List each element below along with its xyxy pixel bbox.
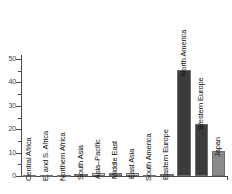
y-tick-major: [16, 176, 21, 177]
bar: [177, 70, 190, 176]
y-tick-label: 20: [0, 125, 16, 132]
bar-category-label: South Asia: [76, 145, 85, 180]
bar-category-label: Middle East: [110, 141, 119, 179]
bar-category-label: Central Africa: [24, 137, 33, 181]
y-tick-label: 30: [0, 102, 16, 109]
y-axis-line: [21, 55, 22, 177]
y-tick-major: [16, 59, 21, 60]
bar-category-label: Japan: [213, 137, 222, 157]
y-tick-label: 10: [0, 149, 16, 156]
bar-category-label: Northern Africa: [58, 132, 67, 181]
bar-chart: 01020304050 Central AfricaE. and S. Afri…: [0, 0, 232, 194]
bar-category-label: North America: [179, 30, 188, 76]
bar-category-label: E. and S. Africa: [41, 131, 50, 181]
y-tick-label: 40: [0, 78, 16, 85]
bar: [195, 124, 208, 176]
bar-category-label: Asia–Pacific: [93, 140, 102, 180]
y-tick-minor: [18, 164, 21, 165]
y-tick-label: 50: [0, 55, 16, 62]
y-tick-major: [16, 129, 21, 130]
x-axis-end-tick: [227, 176, 228, 180]
y-tick-major: [16, 153, 21, 154]
y-tick-minor: [18, 141, 21, 142]
bar-category-label: East Asia: [127, 149, 136, 179]
y-tick-major: [16, 82, 21, 83]
bar-category-label: Eastern Europe: [161, 129, 170, 180]
bar-category-label: South America: [144, 133, 153, 180]
y-tick-major: [16, 106, 21, 107]
y-tick-label: 0: [0, 172, 16, 179]
y-tick-minor: [18, 94, 21, 95]
y-tick-minor: [18, 118, 21, 119]
bar-category-label: Western Europe: [196, 77, 205, 130]
y-tick-minor: [18, 71, 21, 72]
